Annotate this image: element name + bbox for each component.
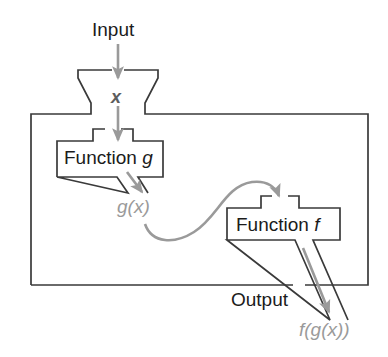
output-label: Output (231, 290, 288, 309)
diagram-canvas (0, 0, 388, 357)
function-f-label: Function f (236, 215, 319, 234)
intermediate-gx-label: g(x) (117, 197, 150, 216)
function-g-word: Function (64, 147, 137, 168)
input-label: Input (92, 20, 134, 39)
function-f-word: Function (236, 214, 309, 235)
variable-x-label: x (111, 88, 121, 106)
function-f-symbol: f (314, 214, 319, 235)
g-output-arrow (127, 172, 142, 192)
function-g-symbol: g (142, 147, 153, 168)
function-g-label: Function g (64, 148, 153, 167)
composite-function-diagram: Input x Function g g(x) Function f Outpu… (0, 0, 388, 357)
result-fgx-label: f(g(x)) (299, 320, 350, 339)
